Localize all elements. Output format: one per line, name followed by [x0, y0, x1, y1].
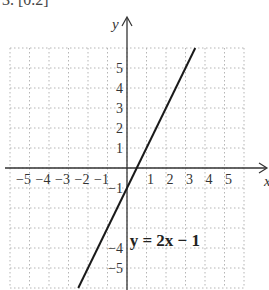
x-tick-label: 3: [186, 172, 193, 187]
y-tick-label: −5: [108, 261, 123, 276]
x-tick-label: −3: [55, 172, 70, 187]
annotations: y = 2x − 1: [130, 231, 200, 250]
x-tick-label: 4: [206, 172, 213, 187]
x-tick-label: −4: [36, 172, 51, 187]
y-tick-label: 4: [116, 81, 123, 96]
y-tick-label: −4: [108, 241, 123, 256]
x-tick-label: −5: [16, 172, 31, 187]
x-tick-label: 2: [167, 172, 174, 187]
y-tick-label: 1: [116, 141, 123, 156]
y-tick-label: 2: [116, 121, 123, 136]
x-tick-label: 1: [147, 172, 154, 187]
line-chart: yx −5−4−3−2−11234554321−1−4−5 y = 2x − 1: [0, 0, 269, 290]
y-tick-label: 3: [116, 101, 123, 116]
x-tick-label: 5: [225, 172, 232, 187]
equation-label: y = 2x − 1: [130, 231, 200, 250]
y-tick-label: −1: [108, 181, 123, 196]
y-axis-label: y: [110, 16, 119, 32]
x-tick-label: −2: [75, 172, 90, 187]
x-axis-label: x: [263, 173, 269, 189]
x-tick-label: −1: [94, 172, 109, 187]
y-tick-label: 5: [116, 61, 123, 76]
